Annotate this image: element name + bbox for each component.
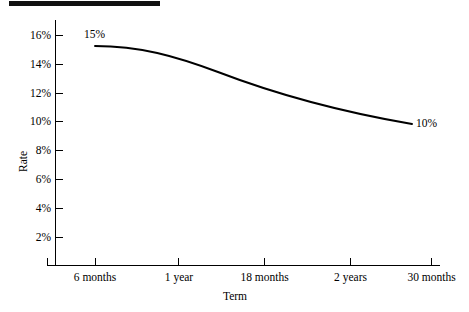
y-tick-label-4: 4% — [16, 203, 51, 215]
chart-canvas — [0, 0, 469, 312]
y-tick-label-2: 2% — [16, 232, 51, 244]
x-tick-label-30-months: 30 months — [389, 272, 469, 284]
y-tick-label-10: 10% — [16, 116, 51, 128]
data-label-start-15-percent: 15% — [84, 29, 105, 41]
y-tick-label-14: 14% — [16, 59, 51, 71]
x-tick-label-6-months: 6 months — [55, 272, 135, 284]
x-tick-label-1-year: 1 year — [146, 272, 212, 284]
x-axis-ticks — [48, 258, 432, 265]
x-tick-label-18-months: 18 months — [222, 272, 307, 284]
y-tick-label-16: 16% — [16, 30, 51, 42]
y-tick-label-12: 12% — [16, 88, 51, 100]
y-tick-label-6: 6% — [16, 174, 51, 186]
rate-curve — [95, 46, 412, 124]
y-axis-title: Rate — [18, 151, 30, 172]
y-axis-ticks — [56, 36, 63, 238]
data-label-end-10-percent: 10% — [416, 118, 437, 130]
x-tick-label-2-years: 2 years — [314, 272, 387, 284]
rate-vs-term-chart: 16% 14% 12% 10% 8% 6% 4% 2% 6 months 1 y… — [0, 0, 469, 312]
x-axis-title: Term — [205, 291, 265, 303]
